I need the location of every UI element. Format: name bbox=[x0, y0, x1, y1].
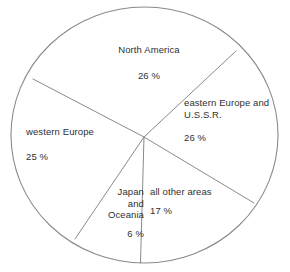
slice-label-japan-line1: Japan bbox=[118, 186, 144, 197]
slice-value-north-america: 26 % bbox=[102, 70, 196, 82]
slice-label-japan-line2: and bbox=[128, 198, 144, 209]
slice-value-all-other-areas: 17 % bbox=[150, 205, 240, 217]
slice-value-eastern-europe-ussr: 26 % bbox=[184, 132, 288, 144]
slice-value-japan-and-oceania: 6 % bbox=[96, 228, 144, 240]
slice-label-japan-and-oceania: JapanandOceania bbox=[96, 186, 144, 221]
slice-value-western-europe: 25 % bbox=[26, 151, 120, 163]
pie-labels: North America 26 % eastern Europe andU.S… bbox=[0, 0, 290, 272]
slice-label-all-other-areas: all other areas bbox=[150, 186, 240, 198]
slice-label-japan-line3: Oceania bbox=[108, 209, 144, 220]
slice-label-eastern-europe-ussr: eastern Europe andU.S.S.R. bbox=[184, 97, 288, 120]
slice-label-north-america: North America bbox=[102, 44, 196, 56]
slice-label-western-europe: western Europe bbox=[26, 126, 120, 138]
pie-chart: North America 26 % eastern Europe andU.S… bbox=[0, 0, 290, 272]
slice-label-eastern-europe-line2: U.S.S.R. bbox=[184, 109, 222, 120]
slice-label-eastern-europe-line1: eastern Europe and bbox=[184, 97, 269, 108]
